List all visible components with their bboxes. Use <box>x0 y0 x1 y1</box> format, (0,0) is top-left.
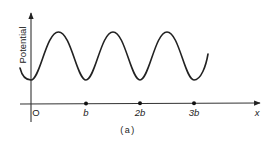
tick-dot-2b <box>138 101 142 105</box>
x-axis-label: x <box>254 107 261 118</box>
origin-label: O <box>32 107 39 118</box>
tick-label-b: b <box>83 107 88 118</box>
potential-curve <box>20 32 208 80</box>
figure-caption: (a) <box>120 125 136 135</box>
tick-label-3b: 3b <box>189 107 200 118</box>
tick-dot-b <box>84 102 88 106</box>
periodic-potential-diagram: Potential O b 2b 3b x (a) <box>0 0 275 143</box>
y-axis-label: Potential <box>17 27 28 64</box>
tick-label-2b: 2b <box>134 107 146 118</box>
tick-dot-3b <box>192 101 196 105</box>
